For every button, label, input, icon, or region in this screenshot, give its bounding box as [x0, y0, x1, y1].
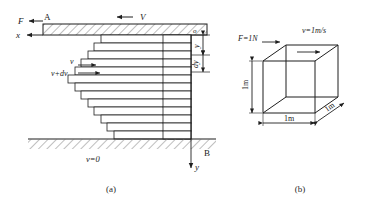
stack-layer — [163, 51, 191, 59]
cube-front-face — [263, 61, 315, 113]
cube-width-dimension: 1m — [263, 113, 315, 126]
point-b-label: B — [204, 148, 210, 158]
stack-layer — [163, 67, 191, 75]
stack-layer — [163, 59, 191, 67]
plate-velocity-group: V — [117, 12, 147, 22]
stack-layer — [163, 107, 191, 115]
top-plate-body — [43, 24, 207, 35]
stack-layer — [163, 75, 191, 83]
figure-canvas: F A V x — [0, 0, 368, 205]
cube-edge — [263, 45, 286, 61]
y-axis-label: y — [194, 162, 199, 172]
stack-layer — [163, 99, 191, 107]
stack-layer — [163, 123, 191, 131]
panel-a: F A V x — [15, 12, 216, 194]
panel-b: F=1N v=1m/s 1m 1m — [237, 26, 344, 194]
stack-layer — [163, 35, 191, 43]
force-arrow-group: F — [17, 16, 43, 26]
cube-edge — [315, 45, 338, 61]
stack-layer — [163, 91, 191, 99]
bottom-wall-hatch — [28, 139, 216, 149]
dy-dimension-label: dy — [191, 60, 200, 68]
stack-layer — [163, 83, 191, 91]
y-axis-group: y — [191, 35, 199, 172]
cube-height-dimension: 1m — [241, 61, 262, 113]
right-layer-stack — [163, 35, 191, 139]
top-plate — [43, 24, 207, 35]
x-axis-group: x — [15, 30, 43, 40]
force-label: F — [17, 16, 24, 26]
wall-velocity-label: v=0 — [86, 154, 101, 164]
plate-velocity-label: V — [140, 12, 147, 22]
stack-layer — [163, 43, 191, 51]
v-label: v — [70, 57, 74, 66]
physics-figure: F A V x — [0, 0, 368, 205]
cube-velocity-group: v=1m/s — [297, 26, 326, 52]
panel-a-caption: (a) — [106, 184, 116, 194]
cube-width-label: 1m — [284, 114, 295, 123]
bottom-wall — [28, 139, 216, 149]
cube-height-label: 1m — [241, 79, 250, 90]
cube-velocity-label: v=1m/s — [302, 26, 326, 35]
cube-depth-label: 1m — [323, 100, 337, 114]
cube-edge — [263, 97, 286, 113]
panel-b-caption: (b) — [295, 184, 306, 194]
point-a-label: A — [44, 12, 51, 22]
stack-layer — [163, 131, 191, 139]
cube-force-label: F=1N — [237, 34, 258, 43]
cube-back-face — [286, 45, 338, 97]
x-axis-label: x — [15, 30, 20, 40]
origin-label: o — [193, 27, 197, 35]
y-dimension-label: y — [192, 44, 201, 49]
cube-depth-dimension: 1m — [318, 100, 344, 121]
v-plus-dv-label: v+dv — [51, 69, 68, 78]
cube-force-group: F=1N — [237, 34, 280, 43]
stack-layer — [163, 115, 191, 123]
